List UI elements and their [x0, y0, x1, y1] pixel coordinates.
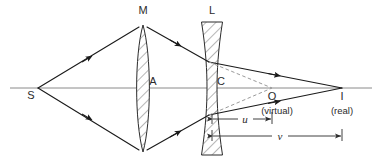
label-source-s: S — [27, 89, 34, 101]
arrow-upper-incident — [82, 57, 90, 62]
diagram-labels: S M A L C O (virtual) I (real) — [27, 4, 353, 116]
converging-lens-m — [125, 20, 161, 160]
label-lens-l: L — [209, 4, 215, 16]
arrow-upper-between — [170, 40, 179, 45]
label-lens-m: M — [138, 4, 147, 16]
lens-m-hatching — [125, 20, 161, 160]
arrow-lower-between — [170, 132, 179, 137]
label-lens-l-center-c: C — [217, 75, 225, 87]
dimension-v: v — [212, 129, 342, 142]
optics-ray-diagram: u v S M A L C O (virtual) I (real) — [0, 0, 380, 163]
label-virtual-note: (virtual) — [261, 105, 293, 116]
dimension-u-label: u — [242, 113, 248, 125]
arrow-upper-refracted — [268, 74, 278, 76]
diagram-canvas: u v S M A L C O (virtual) I (real) — [0, 0, 380, 163]
label-lens-m-center-a: A — [149, 75, 157, 87]
ray-lower-incident — [38, 88, 139, 150]
label-virtual-point-o: O — [268, 90, 277, 102]
label-real-note: (real) — [331, 105, 353, 116]
dimension-v-label: v — [278, 130, 283, 142]
label-image-point-i: I — [340, 90, 343, 102]
